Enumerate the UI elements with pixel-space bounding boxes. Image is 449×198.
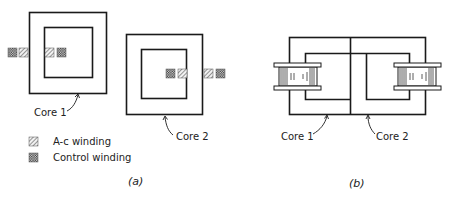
- core-1-leader-arrow: [67, 95, 78, 111]
- figure-b: Core 1 Core 2 (b): [274, 38, 441, 191]
- ac-winding-swatch-icon: [29, 137, 38, 146]
- core-2-toroid: [127, 35, 203, 115]
- legend-ac-winding: A-c winding: [53, 136, 111, 147]
- control-winding-icon: [216, 69, 225, 78]
- caption-b: (b): [349, 177, 365, 190]
- core-1-toroid: [30, 13, 107, 94]
- coil-flange-top: [394, 63, 441, 67]
- core-1-label: Core 1: [34, 107, 67, 118]
- core-2-label-b: Core 2: [376, 131, 409, 142]
- ac-winding-icon: [19, 48, 28, 57]
- coil-flange-top: [274, 63, 321, 67]
- core-2-leader-arrow: [165, 117, 173, 135]
- ac-winding-icon: [178, 69, 187, 78]
- control-winding-swatch-icon: [29, 153, 38, 162]
- core-2-outer: [127, 35, 203, 115]
- core-1-outer: [30, 13, 107, 94]
- coil-flange-bottom: [274, 86, 321, 90]
- core-2-leader-arrow-b: [368, 116, 375, 134]
- core-1-coil: [274, 63, 321, 90]
- legend: A-c winding Control winding: [29, 136, 131, 163]
- core-2-label: Core 2: [176, 131, 209, 142]
- magnetic-amplifier-cores-diagram: Core 1 Core 2 A-c winding Control windin…: [0, 0, 449, 198]
- ac-winding-icon: [204, 69, 213, 78]
- core-1-label-b: Core 1: [281, 131, 314, 142]
- caption-a: (a): [128, 175, 143, 188]
- control-winding-icon: [166, 69, 175, 78]
- coil-flange-bottom: [394, 86, 441, 90]
- ac-winding-icon: [45, 48, 54, 57]
- core-2-coil: [394, 63, 441, 90]
- control-winding-icon: [57, 48, 66, 57]
- control-winding-icon: [8, 48, 17, 57]
- legend-control-winding: Control winding: [53, 152, 131, 163]
- figure-a: Core 1 Core 2 A-c winding Control windin…: [8, 13, 225, 189]
